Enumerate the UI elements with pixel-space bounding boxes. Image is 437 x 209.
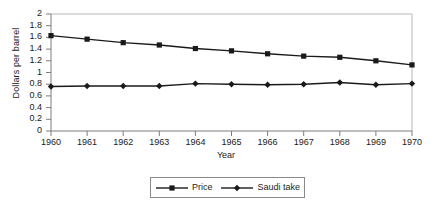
y-tick-label: 0.6 <box>16 91 42 100</box>
x-tick-label: 1960 <box>31 138 71 147</box>
y-axis-ticks <box>46 14 51 131</box>
data-point <box>156 83 162 89</box>
x-tick-label: 1968 <box>320 138 360 147</box>
y-tick-label: 1.2 <box>16 56 42 65</box>
x-tick-label: 1964 <box>175 138 215 147</box>
legend-label: Saudi take <box>257 183 300 192</box>
y-tick-label: 1.8 <box>16 21 42 30</box>
x-tick-label: 1962 <box>103 138 143 147</box>
data-point <box>409 80 415 86</box>
y-tick-label: 1 <box>16 68 42 77</box>
data-point <box>373 58 378 63</box>
data-point <box>84 83 90 89</box>
x-axis-ticks <box>51 131 412 136</box>
data-point <box>229 48 234 53</box>
legend-label: Price <box>192 183 213 192</box>
data-point <box>228 81 234 87</box>
y-tick-label: 0.2 <box>16 114 42 123</box>
x-tick-label: 1969 <box>356 138 396 147</box>
x-tick-label: 1963 <box>139 138 179 147</box>
data-point <box>193 46 198 51</box>
x-tick-label: 1965 <box>212 138 252 147</box>
series-layer <box>48 33 415 90</box>
x-tick-label: 1970 <box>392 138 432 147</box>
legend-entry-price[interactable]: Price <box>155 183 213 193</box>
data-point <box>337 55 342 60</box>
data-point <box>301 81 307 87</box>
series-price <box>48 33 414 67</box>
y-tick-label: 0 <box>16 126 42 135</box>
data-point <box>48 33 53 38</box>
y-tick-label: 1.6 <box>16 32 42 41</box>
y-tick-label: 2 <box>16 9 42 18</box>
chart-legend: PriceSaudi take <box>150 177 305 198</box>
data-point <box>264 82 270 88</box>
y-tick-label: 0.8 <box>16 79 42 88</box>
data-point <box>301 54 306 59</box>
series-saudi-take <box>48 79 415 89</box>
data-point <box>157 42 162 47</box>
diamond-marker-icon <box>220 183 254 193</box>
x-tick-label: 1967 <box>284 138 324 147</box>
data-point <box>409 62 414 67</box>
data-point <box>121 40 126 45</box>
data-point <box>265 51 270 56</box>
y-tick-label: 1.4 <box>16 44 42 53</box>
x-axis-title: Year <box>196 150 256 160</box>
square-marker-icon <box>155 183 189 193</box>
data-point <box>337 79 343 85</box>
x-tick-label: 1961 <box>67 138 107 147</box>
data-point <box>120 83 126 89</box>
data-point <box>373 82 379 88</box>
x-tick-label: 1966 <box>248 138 288 147</box>
data-point <box>85 37 90 42</box>
y-tick-label: 0.4 <box>16 103 42 112</box>
legend-entry-saudi-take[interactable]: Saudi take <box>220 183 300 193</box>
data-point <box>192 80 198 86</box>
line-chart: Dollars per barrel <box>0 0 437 209</box>
